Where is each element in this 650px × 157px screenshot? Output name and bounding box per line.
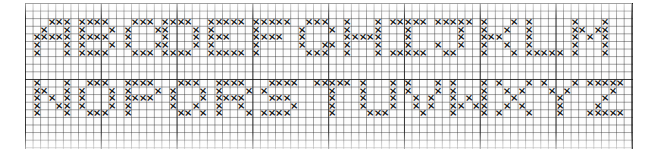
stitch-icon: × [328, 41, 337, 50]
stitch-icon: × [525, 79, 534, 88]
stitch-icon: × [419, 109, 428, 118]
stitch-icon: × [100, 48, 109, 57]
stitch-icon: × [502, 25, 511, 34]
stitch-icon: × [419, 18, 428, 27]
cross-stitch-alphabet-chart: ××××××××××××××××××××××××××××××××××××××××… [25, 3, 633, 149]
stitch-icon: × [244, 86, 253, 95]
stitch-icon: × [464, 18, 473, 27]
stitch-icon: × [616, 109, 625, 118]
stitch-icon: × [495, 109, 504, 118]
stitch-icon: × [214, 109, 223, 118]
stitch-icon: × [502, 101, 511, 110]
stitch-icon: × [343, 48, 352, 57]
stitch-icon: × [184, 48, 193, 57]
stitch-icon: × [62, 109, 71, 118]
stitch-icon: × [282, 18, 291, 27]
stitch-icon: × [199, 94, 208, 103]
stitch-icon: × [237, 48, 246, 57]
stitch-icon: × [563, 86, 572, 95]
stitch-icon: × [199, 109, 208, 118]
stitch-icon: × [570, 79, 579, 88]
stitch-icon: × [100, 109, 109, 118]
stitch-icon: × [419, 48, 428, 57]
stitch-icon: × [108, 25, 117, 34]
stitch-icon: × [108, 41, 117, 50]
stitch-icon: × [510, 18, 519, 27]
stitch-icon: × [328, 109, 337, 118]
stitch-icon: × [449, 109, 458, 118]
stitch-icon: × [184, 109, 193, 118]
stitch-icon: × [282, 109, 291, 118]
stitch-icon: × [457, 101, 466, 110]
stitch-icon: × [510, 48, 519, 57]
stitch-icon: × [153, 86, 162, 95]
stitch-icon: × [616, 79, 625, 88]
stitch-icon: × [343, 79, 352, 88]
stitch-icon: × [146, 48, 155, 57]
stitch-icon: × [32, 109, 41, 118]
stitch-icon: × [570, 48, 579, 57]
stitch-icon: × [601, 48, 610, 57]
stitch-icon: × [555, 48, 564, 57]
stitch-icon: × [601, 94, 610, 103]
stitch-icon: × [222, 33, 231, 42]
stitch-icon: × [479, 109, 488, 118]
stitch-icon: × [123, 109, 132, 118]
stitch-icon: × [108, 101, 117, 110]
stitch-icon: × [457, 41, 466, 50]
stitch-icon: × [373, 48, 382, 57]
stitch-icon: × [237, 18, 246, 27]
stitch-icon: × [275, 33, 284, 42]
stitch-icon: × [608, 86, 617, 95]
stitch-icon: × [388, 101, 397, 110]
stitch-icon: × [434, 86, 443, 95]
stitch-icon: × [62, 48, 71, 57]
stitch-icon: × [381, 109, 390, 118]
grid-fade-top [25, 3, 632, 17]
stitch-icon: × [252, 48, 261, 57]
grid-fade-bottom [25, 131, 632, 149]
stitch-icon: × [555, 109, 564, 118]
stitch-icon: × [290, 79, 299, 88]
stitch-icon: × [32, 48, 41, 57]
stitch-icon: × [328, 25, 337, 34]
stitch-icon: × [191, 41, 200, 50]
stitch-icon: × [320, 48, 329, 57]
stitch-icon: × [244, 109, 253, 118]
stitch-icon: × [426, 101, 435, 110]
stitch-icon: × [290, 101, 299, 110]
stitch-icon: × [449, 48, 458, 57]
stitch-icon: × [479, 48, 488, 57]
stitch-icon: × [146, 94, 155, 103]
stitch-icon: × [517, 86, 526, 95]
stitch-icon: × [586, 33, 595, 42]
stitch-icon: × [525, 109, 534, 118]
